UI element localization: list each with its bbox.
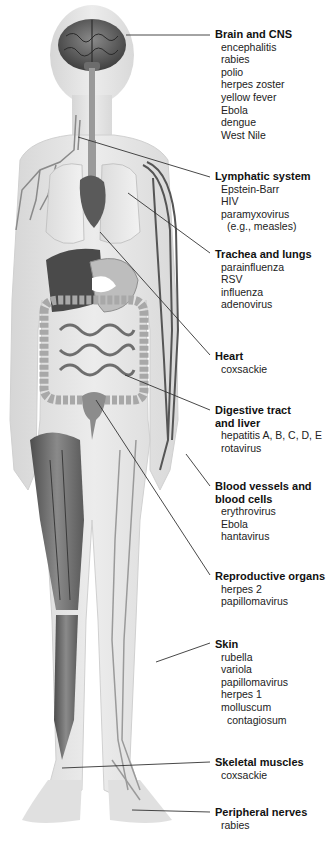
label-title: Blood vessels and: [215, 480, 312, 493]
label-title: Brain and CNS: [215, 28, 292, 41]
label-title: Skin: [215, 638, 288, 651]
virus-item: coxsackie: [215, 363, 267, 376]
virus-item: contagiosum: [215, 714, 288, 727]
label-peripheral-nerves: Peripheral nerves rabies: [215, 806, 307, 831]
virus-item: West Nile: [215, 129, 292, 142]
label-reproductive-organs: Reproductive organs herpes 2 papillomavi…: [215, 570, 325, 608]
virus-item: variola: [215, 663, 288, 676]
label-skin: Skin rubella variola papillomavirus herp…: [215, 638, 288, 726]
virus-item: RSV: [215, 273, 312, 286]
virus-item: rotavirus: [215, 442, 322, 455]
label-digestive-tract-liver: Digestive tract and liver hepatitis A, B…: [215, 404, 322, 454]
virus-item: Ebola: [215, 518, 312, 531]
label-title: blood cells: [215, 493, 312, 506]
label-title: Digestive tract: [215, 404, 322, 417]
label-title: Heart: [215, 350, 267, 363]
virus-item: Ebola: [215, 104, 292, 117]
label-heart: Heart coxsackie: [215, 350, 267, 375]
label-brain-cns: Brain and CNS encephalitis rabies polio …: [215, 28, 292, 141]
virus-item: rabies: [215, 53, 292, 66]
label-title: and liver: [215, 417, 322, 430]
label-lymphatic-system: Lymphatic system Epstein-Barr HIV paramy…: [215, 170, 311, 233]
label-blood-vessels-cells: Blood vessels and blood cells erythrovir…: [215, 480, 312, 543]
virus-item: HIV: [215, 195, 311, 208]
label-title: Trachea and lungs: [215, 248, 312, 261]
label-title: Skeletal muscles: [215, 756, 304, 769]
virus-item: papillomavirus: [215, 595, 325, 608]
label-title: Lymphatic system: [215, 170, 311, 183]
virus-item: paramyxovirus: [215, 208, 311, 221]
label-trachea-lungs: Trachea and lungs parainfluenza RSV infl…: [215, 248, 312, 311]
virus-item: papillomavirus: [215, 676, 288, 689]
label-title: Peripheral nerves: [215, 806, 307, 819]
label-title: Reproductive organs: [215, 570, 325, 583]
virus-item: rubella: [215, 651, 288, 664]
virus-item: adenovirus: [215, 298, 312, 311]
virus-item: parainfluenza: [215, 261, 312, 274]
virus-item: hepatitis A, B, C, D, E: [215, 429, 322, 442]
virus-item: erythrovirus: [215, 505, 312, 518]
virus-item: herpes zoster: [215, 78, 292, 91]
virus-item: (e.g., measles): [215, 220, 311, 233]
virus-item: influenza: [215, 286, 312, 299]
virus-item: herpes 2: [215, 583, 325, 596]
virus-item: coxsackie: [215, 769, 304, 782]
virus-item: Epstein-Barr: [215, 183, 311, 196]
virus-item: herpes 1: [215, 688, 288, 701]
virus-item: encephalitis: [215, 41, 292, 54]
virus-item: yellow fever: [215, 91, 292, 104]
virus-item: molluscum: [215, 701, 288, 714]
label-skeletal-muscles: Skeletal muscles coxsackie: [215, 756, 304, 781]
virus-item: polio: [215, 66, 292, 79]
virus-item: dengue: [215, 116, 292, 129]
virus-item: hantavirus: [215, 530, 312, 543]
virus-item: rabies: [215, 819, 307, 832]
